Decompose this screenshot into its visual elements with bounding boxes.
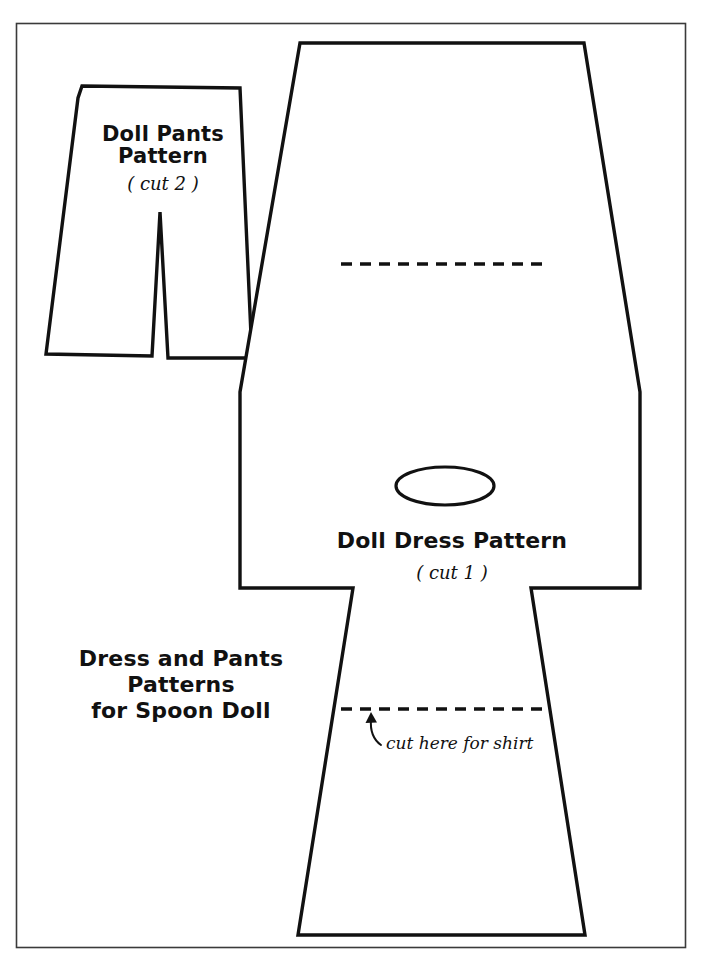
neck-hole bbox=[396, 467, 494, 505]
sheet-caption-line2: Patterns bbox=[127, 672, 235, 697]
doll-pants-pattern-piece: Doll Pants Pattern ( cut 2 ) bbox=[46, 86, 252, 358]
sheet-caption-line1: Dress and Pants bbox=[79, 646, 283, 671]
pants-title-line2: Pattern bbox=[118, 144, 208, 168]
sheet-caption-line3: for Spoon Doll bbox=[91, 698, 271, 723]
pants-title-line1: Doll Pants bbox=[102, 122, 224, 146]
pattern-sheet-canvas: Doll Pants Pattern ( cut 2 ) Doll Dress … bbox=[0, 0, 705, 959]
dress-title: Doll Dress Pattern bbox=[337, 528, 567, 553]
pants-cut-quantity: ( cut 2 ) bbox=[127, 173, 199, 194]
dress-cut-quantity: ( cut 1 ) bbox=[416, 562, 488, 583]
cut-here-annotation: cut here for shirt bbox=[386, 733, 534, 753]
pattern-sheet-page: Doll Pants Pattern ( cut 2 ) Doll Dress … bbox=[0, 0, 705, 959]
